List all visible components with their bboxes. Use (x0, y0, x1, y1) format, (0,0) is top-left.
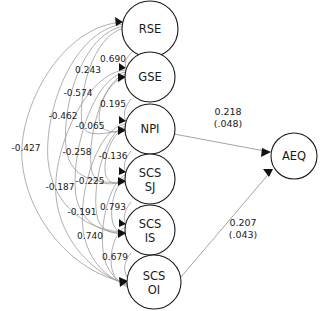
edge-label-0793: 0.793 (100, 202, 126, 212)
node-aeq[interactable]: AEQ (271, 133, 317, 179)
node-npi[interactable]: NPI (125, 104, 175, 154)
structural-path-group (174, 134, 273, 277)
path-line-npi-aeq (174, 134, 270, 152)
edge-label-0690: 0.690 (100, 54, 126, 64)
edge-label-0195: 0.195 (100, 99, 126, 109)
edge-label-n0136: -0.136 (98, 151, 127, 161)
edge-label-0679: 0.679 (102, 252, 128, 262)
correlation-label-n0258: -0.258 (62, 147, 91, 157)
node-gse[interactable]: GSE (125, 52, 175, 102)
edge-label-n0225: -0.225 (75, 176, 104, 186)
arrowhead-into-aeq-lower (263, 169, 273, 177)
diagram-canvas: RSE GSE NPI SCS SJ SCS IS SCS (0, 0, 321, 311)
path-label-scsoi-aeq-se: (.043) (229, 229, 258, 240)
path-label-scsoi-aeq-estimate: 0.207 (229, 217, 256, 228)
node-scs-oi-label-line2: OI (148, 283, 160, 297)
node-scs-oi[interactable]: SCS OI (127, 255, 181, 309)
node-npi-label: NPI (141, 122, 160, 136)
structural-path-label-group: 0.218 (.048) 0.207 (.043) (214, 106, 258, 240)
path-label-npi-aeq-se: (.048) (214, 118, 243, 129)
node-scs-is[interactable]: SCS IS (125, 205, 175, 255)
correlation-label-n0574: -0.574 (63, 88, 92, 98)
arrowhead-into-aeq-upper (261, 148, 271, 157)
path-line-scsoi-aeq (181, 170, 272, 277)
edge-label-0740: 0.740 (77, 231, 103, 241)
node-rse-label: RSE (139, 22, 162, 36)
node-aeq-label: AEQ (282, 149, 306, 163)
correlation-label-n0187: -0.187 (45, 182, 74, 192)
node-scs-is-label-line2: IS (145, 231, 156, 245)
node-scs-sj[interactable]: SCS SJ (125, 154, 175, 204)
node-scs-sj-label-line2: SJ (145, 180, 156, 194)
node-rse[interactable]: RSE (122, 1, 178, 57)
edge-label-0243: 0.243 (75, 65, 101, 75)
correlation-label-n0427: -0.427 (11, 143, 40, 153)
node-scs-oi-label-line1: SCS (143, 269, 166, 283)
sem-path-diagram: RSE GSE NPI SCS SJ SCS IS SCS (0, 0, 321, 311)
path-label-npi-aeq-estimate: 0.218 (214, 106, 241, 117)
correlation-label-n0191: -0.191 (67, 207, 96, 217)
node-scs-sj-label-line1: SCS (139, 166, 162, 180)
edge-label-n0065: -0.065 (75, 121, 104, 131)
node-scs-is-label-line1: SCS (139, 217, 162, 231)
node-gse-label: GSE (138, 70, 161, 84)
node-group: RSE GSE NPI SCS SJ SCS IS SCS (122, 1, 317, 309)
correlation-label-n0462: -0.462 (48, 111, 77, 121)
